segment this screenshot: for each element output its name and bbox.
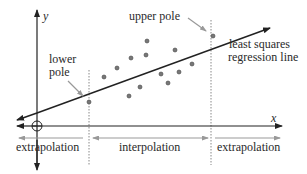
regression-line-extension-left (17, 113, 37, 120)
extrapolation-left-label: extrapolation (16, 140, 79, 154)
extrapolation-right-label: extrapolation (217, 140, 280, 154)
lower-pole-label-line1: lower (49, 52, 76, 66)
lower-pole-label-line2: pole (49, 65, 70, 79)
y-axis-label: y (42, 9, 49, 23)
upper-pole-label: upper pole (129, 9, 180, 23)
lower-pole-pointer (68, 81, 83, 96)
scatter-points (87, 34, 215, 104)
upper-pole-pointer (188, 18, 206, 31)
x-axis-label: x (270, 111, 277, 125)
interpolation-label: interpolation (119, 140, 180, 154)
regression-label-line2: regression line (228, 50, 298, 64)
regression-label-line1: least squares (229, 37, 290, 51)
regression-diagram: y x upper pole lower pole least squares … (0, 0, 307, 174)
